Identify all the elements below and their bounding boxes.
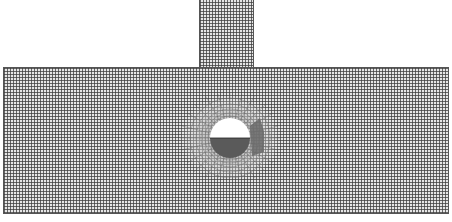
mesh-top-block bbox=[200, 0, 253, 69]
refined-mesh-around-opening bbox=[180, 92, 280, 178]
